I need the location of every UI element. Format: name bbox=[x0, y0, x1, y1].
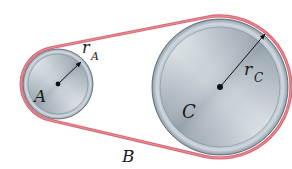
label-radius-a-subscript: A bbox=[90, 50, 99, 63]
label-belt-b: B bbox=[121, 146, 135, 166]
pulley-a bbox=[23, 49, 93, 119]
label-radius-c: r bbox=[244, 59, 253, 79]
pulley-c bbox=[152, 19, 288, 155]
label-pulley-a: A bbox=[32, 86, 46, 106]
label-pulley-c: C bbox=[182, 101, 196, 122]
belt-drive-diagram: A r A C r C B bbox=[0, 0, 292, 169]
label-radius-c-subscript: C bbox=[254, 71, 263, 85]
label-radius-a: r bbox=[82, 38, 91, 57]
